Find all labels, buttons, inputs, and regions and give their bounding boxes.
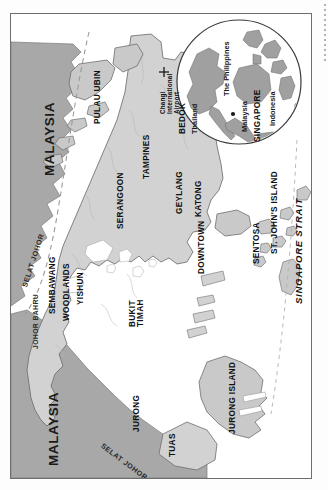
inset-singapore-dot [231, 112, 235, 116]
map-graphic [11, 14, 311, 478]
scan-binding-artifact [324, 4, 326, 64]
regional-inset [177, 20, 303, 144]
inset-philippines-4 [253, 54, 261, 64]
map-page: MALAYSIA MALAYSIA JOHOR BAHRU SELAT JOHO… [0, 0, 328, 490]
map-frame: MALAYSIA MALAYSIA JOHOR BAHRU SELAT JOHO… [10, 13, 312, 479]
